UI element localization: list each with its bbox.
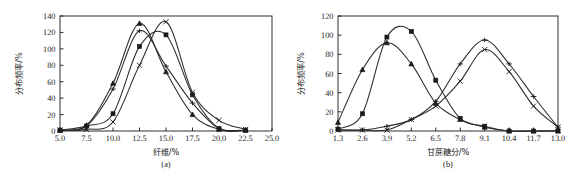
series-curve-square: [60, 31, 246, 131]
y-tick-label: 140: [43, 12, 55, 21]
series-curve-square: [338, 26, 558, 131]
data-point-square: [111, 112, 115, 116]
data-point-triangle: [336, 120, 341, 125]
x-tick-label: 5.0: [55, 134, 65, 143]
y-tick-label: 20: [325, 108, 333, 117]
x-tick-label: 5.2: [406, 134, 416, 143]
data-point-cross: [110, 119, 115, 124]
panel-caption: (a): [161, 160, 171, 169]
x-tick-label: 9.1: [479, 134, 489, 143]
series-curve-dash: [338, 40, 558, 130]
data-point-square: [138, 44, 142, 48]
panel-caption: (b): [443, 160, 453, 169]
data-point-cross: [216, 118, 221, 123]
data-point-triangle: [164, 69, 169, 74]
data-point-dash: [457, 62, 463, 66]
data-point-square: [409, 29, 413, 33]
x-tick-label: 20.0: [212, 134, 227, 143]
x-axis-title: 甘蔗糖分/%: [427, 147, 470, 157]
data-point-square: [164, 33, 168, 37]
y-tick-label: 80: [325, 50, 333, 59]
y-tick-label: 60: [47, 78, 55, 87]
data-point-square: [385, 35, 389, 39]
x-tick-label: 11.7: [526, 134, 540, 143]
y-tick-label: 40: [325, 89, 333, 98]
chart-a-plot-area: 0204060801001201405.07.510.012.515.017.5…: [14, 12, 279, 169]
x-tick-label: 17.5: [185, 134, 200, 143]
series-curve-cross: [60, 21, 246, 130]
x-tick-label: 10.0: [106, 134, 121, 143]
x-tick-label: 7.8: [455, 134, 465, 143]
x-tick-label: 13.0: [551, 134, 566, 143]
chart-a-svg: 0204060801001201405.07.510.012.515.017.5…: [0, 0, 290, 191]
data-point-square: [434, 78, 438, 82]
series-curve-triangle: [60, 23, 246, 130]
chart-panel-a: 0204060801001201405.07.510.012.515.017.5…: [0, 0, 290, 191]
figure-root: 0204060801001201405.07.510.012.515.017.5…: [0, 0, 581, 191]
x-axis-title: 纤维/%: [153, 147, 180, 157]
y-tick-label: 20: [47, 111, 55, 120]
x-tick-label: 1.3: [333, 134, 343, 143]
series-curve-dash: [60, 30, 246, 131]
y-tick-label: 120: [321, 12, 333, 21]
y-tick-label: 40: [47, 94, 55, 103]
x-tick-label: 2.6: [357, 134, 367, 143]
data-point-cross: [507, 69, 512, 74]
data-point-dash: [482, 38, 488, 42]
plot-frame: [338, 16, 558, 131]
y-tick-label: 60: [325, 70, 333, 79]
data-point-square: [360, 112, 364, 116]
y-axis-title: 分布频率/%: [14, 52, 24, 95]
data-point-cross: [137, 63, 142, 68]
y-axis-title: 分布频率/%: [296, 52, 306, 95]
data-point-cross: [531, 103, 536, 108]
y-tick-label: 100: [43, 45, 55, 54]
x-tick-label: 3.9: [382, 134, 392, 143]
chart-b-plot-area: 0204060801001201.32.63.95.26.57.89.110.4…: [296, 12, 565, 169]
x-tick-label: 7.5: [81, 134, 91, 143]
x-tick-label: 22.5: [238, 134, 253, 143]
x-tick-label: 12.5: [132, 134, 147, 143]
chart-panel-b: 0204060801001201.32.63.95.26.57.89.110.4…: [290, 0, 580, 191]
x-tick-label: 6.5: [431, 134, 441, 143]
data-point-dash: [531, 94, 537, 98]
x-tick-label: 25.0: [265, 134, 280, 143]
y-tick-label: 120: [43, 28, 55, 37]
x-tick-label: 10.4: [502, 134, 517, 143]
chart-b-svg: 0204060801001201.32.63.95.26.57.89.110.4…: [290, 0, 581, 191]
y-tick-label: 100: [321, 31, 333, 40]
y-tick-label: 80: [47, 61, 55, 70]
x-tick-label: 15.0: [159, 134, 174, 143]
data-point-cross: [458, 79, 463, 84]
